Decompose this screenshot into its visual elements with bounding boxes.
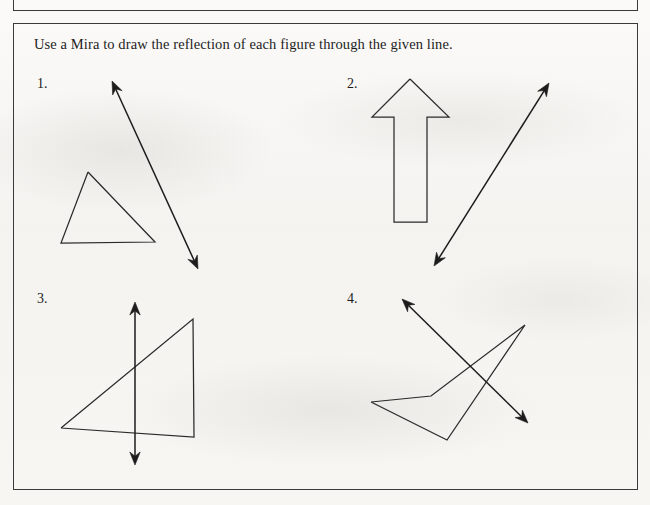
triangle-shape-1 (61, 172, 155, 243)
mirror-line-2-arrowhead-end (538, 83, 549, 97)
mirror-line-2-arrowhead-start (434, 252, 445, 266)
mirror-line-3 (130, 302, 140, 465)
problem-1-figure-group (61, 81, 198, 269)
worksheet-page: Use a Mira to draw the reflection of eac… (0, 0, 650, 505)
mirror-line-4 (402, 299, 528, 423)
dart-shape-4 (371, 325, 525, 440)
triangle-shape-3 (61, 319, 194, 437)
mirror-line-2-segment (438, 89, 545, 260)
figures-layer (0, 0, 650, 505)
problem-4-figure-group (371, 299, 528, 440)
mirror-line-4-segment (407, 304, 523, 418)
mirror-line-1-segment (115, 88, 195, 263)
block-arrow-shape-2 (372, 79, 449, 222)
mirror-line-2 (434, 83, 549, 266)
mirror-line-1 (112, 81, 198, 269)
problem-2-figure-group (372, 79, 549, 266)
problem-3-figure-group (61, 302, 194, 465)
